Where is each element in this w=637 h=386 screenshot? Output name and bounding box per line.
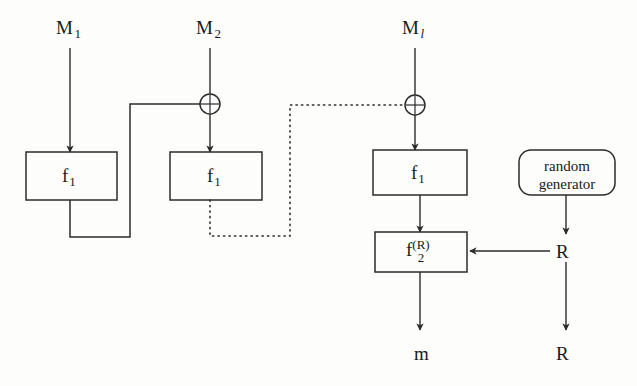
diagram-canvas: M1 M2 Ml f1 f1 f1 f(R)2 random generator… [0, 0, 637, 386]
block-label-f2-r: f(R)2 [406, 240, 436, 259]
input-label-ml-base: M [402, 17, 419, 38]
input-label-m2: M2 [196, 18, 221, 40]
block-label-f1-second-subscript: 1 [213, 174, 221, 189]
block-label-f1-last-subscript: 1 [417, 171, 425, 186]
output-label-r-middle: R [556, 242, 569, 261]
input-label-m1-subscript: 1 [73, 26, 81, 41]
random-generator-label-line1: random [519, 157, 615, 175]
random-generator-label-line2: generator [519, 175, 615, 193]
block-label-f1-second: f1 [207, 166, 221, 188]
input-label-m1-base: M [56, 17, 73, 38]
block-label-f1-first-subscript: 1 [68, 174, 76, 189]
input-label-m1: M1 [56, 18, 81, 40]
input-label-m2-subscript: 2 [213, 26, 221, 41]
edge-f1-second-feedback-dotted [210, 105, 405, 236]
random-generator-label: random generator [519, 157, 615, 194]
input-label-ml-subscript: l [419, 26, 424, 41]
output-label-r-bottom: R [556, 344, 569, 363]
block-label-f2-r-subscript: 2 [418, 250, 425, 265]
block-label-f1-last: f1 [411, 163, 425, 185]
input-label-m2-base: M [196, 17, 213, 38]
edge-f1-first-feedback [70, 104, 200, 237]
output-label-m: m [414, 344, 429, 363]
input-label-ml: Ml [402, 18, 424, 40]
block-label-f1-first: f1 [62, 166, 76, 188]
